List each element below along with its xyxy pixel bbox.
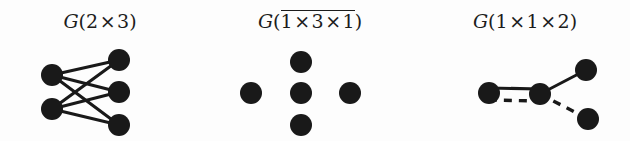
graph-node	[108, 49, 130, 71]
graph-figure: G(2×3) G(1×3×1) G(1×1×2)	[0, 0, 630, 141]
graph-node	[290, 82, 312, 104]
nodes-layer	[41, 49, 599, 136]
graph-node	[240, 82, 262, 104]
graph-node	[575, 59, 597, 81]
graph-drawing-canvas	[0, 0, 630, 141]
graph-node	[478, 82, 500, 104]
edges-layer	[52, 60, 588, 125]
graph-node	[41, 64, 63, 86]
graph-node	[290, 51, 312, 73]
graph-node	[529, 83, 551, 105]
graph-node	[290, 114, 312, 136]
graph-node	[339, 82, 361, 104]
graph-node	[108, 114, 130, 136]
graph-node	[108, 81, 130, 103]
graph-node	[41, 98, 63, 120]
graph-node	[577, 108, 599, 130]
